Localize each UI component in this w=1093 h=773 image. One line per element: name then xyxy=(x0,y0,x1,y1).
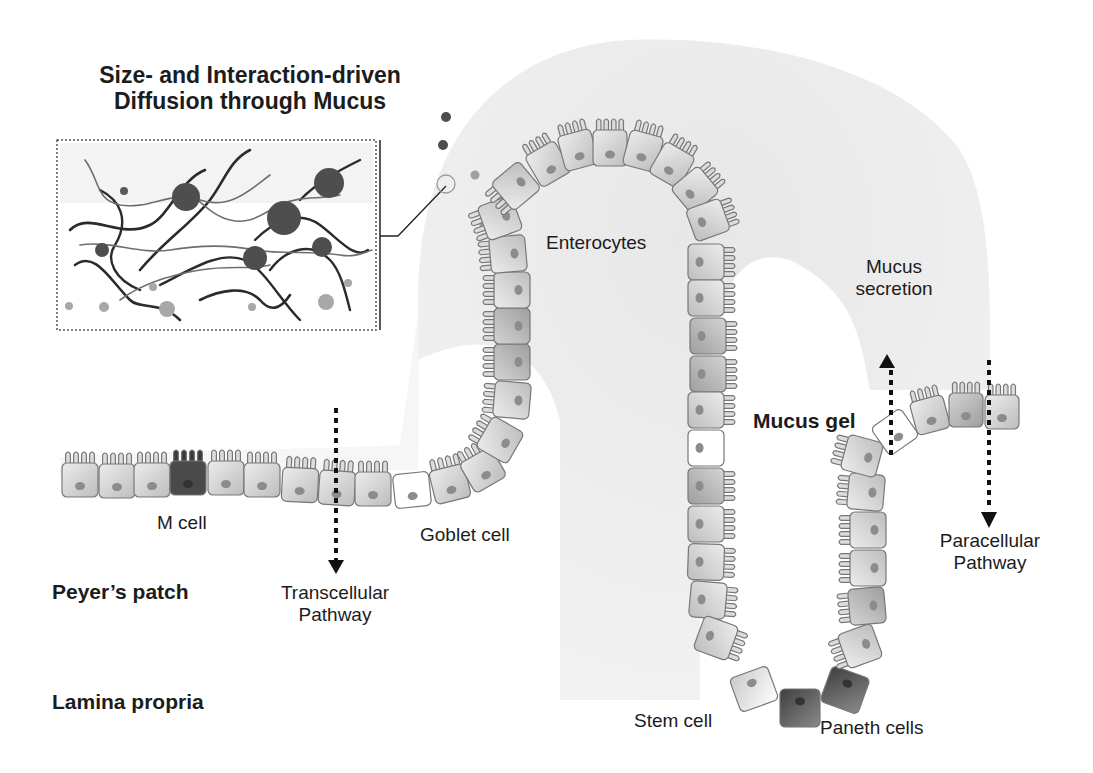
enterocyte-cell xyxy=(688,468,735,504)
stem-cell xyxy=(729,665,779,713)
enterocyte-cell xyxy=(687,543,735,581)
label-goblet-cell: Goblet cell xyxy=(420,524,510,546)
paneth-cell xyxy=(820,665,871,714)
mucus-network-inset xyxy=(57,140,446,330)
intestinal-epithelium-diagram xyxy=(0,0,1093,773)
enterocyte-cell xyxy=(688,506,735,542)
label-paneth-cells: Paneth cells xyxy=(820,717,924,739)
label-transcellular-pathway: Transcellular Pathway xyxy=(250,582,420,626)
label-mucus-secretion: Mucus secretion xyxy=(842,256,946,300)
inset-title-line-1: Size- and Interaction-driven xyxy=(40,62,460,88)
label-paracellular-line-1: Paracellular xyxy=(915,530,1065,552)
label-enterocytes: Enterocytes xyxy=(546,232,646,254)
enterocyte-cell xyxy=(693,615,749,665)
label-paracellular-line-2: Pathway xyxy=(915,552,1065,574)
label-mucus-secretion-line-2: secretion xyxy=(842,278,946,300)
label-lamina-propria: Lamina propria xyxy=(52,690,204,714)
label-m-cell: M cell xyxy=(157,512,207,534)
enterocyte-cell xyxy=(839,550,886,586)
label-mucus-secretion-line-1: Mucus xyxy=(842,256,946,278)
goblet-cell xyxy=(688,430,724,466)
label-peyers-patch: Peyer’s patch xyxy=(52,580,189,604)
paneth-cell xyxy=(780,689,820,727)
enterocyte-cell xyxy=(827,623,883,673)
enterocyte-cell xyxy=(688,392,735,428)
inset-title-line-2: Diffusion through Mucus xyxy=(40,88,460,114)
goblet-cell xyxy=(392,471,431,509)
enterocyte-cell xyxy=(688,280,735,316)
enterocyte-cell xyxy=(836,472,886,512)
inset-title: Size- and Interaction-driven Diffusion t… xyxy=(40,62,460,115)
label-mucus-gel: Mucus gel xyxy=(753,409,856,433)
label-transcellular-line-1: Transcellular xyxy=(250,582,420,604)
enterocyte-cell xyxy=(483,344,530,380)
enterocyte-cell xyxy=(688,580,738,620)
enterocyte-cell xyxy=(482,380,532,420)
label-transcellular-line-2: Pathway xyxy=(250,604,420,626)
enterocyte-cell xyxy=(690,318,737,354)
enterocyte-cell xyxy=(829,431,884,478)
enterocyte-cell xyxy=(839,512,886,548)
enterocyte-cell xyxy=(837,586,887,626)
label-paracellular-pathway: Paracellular Pathway xyxy=(915,530,1065,574)
label-stem-cell: Stem cell xyxy=(634,710,712,732)
enterocyte-cell xyxy=(690,356,737,392)
